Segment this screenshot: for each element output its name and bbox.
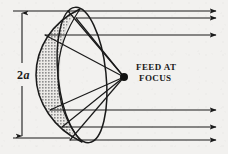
parabolic-antenna-figure: FEED AT FOCUS 2a (0, 0, 228, 154)
reflected-ray-5 (62, 77, 124, 127)
feed-at-focus-label: FEED AT FOCUS (136, 62, 176, 84)
diameter-label: 2a (17, 68, 30, 83)
feed-label-line1: FEED AT (136, 62, 176, 72)
reflected-ray-6 (70, 77, 124, 140)
dish-shaded-surface (36, 9, 82, 142)
diameter-symbol: a (23, 68, 29, 82)
figure-canvas (0, 0, 228, 154)
feed-label-line2: FOCUS (139, 73, 176, 84)
focus-point-marker (120, 73, 128, 81)
reflected-ray-2 (76, 18, 124, 77)
